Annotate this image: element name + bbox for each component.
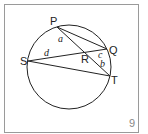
chord-SQ [28, 49, 107, 61]
angle-a: a [58, 33, 63, 44]
figure-number: 9 [129, 117, 135, 129]
angle-c: c [98, 49, 103, 60]
label-Q: Q [109, 44, 118, 56]
chord-ST [28, 61, 110, 76]
label-T: T [111, 74, 118, 86]
angle-d: d [44, 47, 50, 58]
label-P: P [50, 15, 57, 27]
label-S: S [20, 55, 27, 67]
label-R: R [81, 53, 89, 65]
circle-theorem-diagram: P Q R S T a b c d 9 [0, 0, 148, 134]
